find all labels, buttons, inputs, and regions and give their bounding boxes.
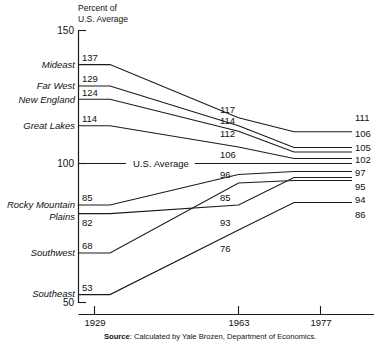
series-label-southeast: Southeast xyxy=(32,288,75,299)
y-axis-title-line2: U.S. Average xyxy=(78,14,128,24)
series-line-southeast xyxy=(79,203,353,295)
value-label-far-west-1977: 106 xyxy=(355,128,371,139)
value-label-southeast-1963: 76 xyxy=(220,243,231,254)
value-label-new-england-1977: 105 xyxy=(355,142,371,153)
source-note-text: : Calculated by Yale Brozen, Department … xyxy=(130,332,317,341)
value-label-plains-1929: 82 xyxy=(82,217,93,228)
value-label-great-lakes-1977: 102 xyxy=(355,154,371,165)
series-line-new-england xyxy=(79,99,353,152)
series-line-mideast xyxy=(79,65,353,132)
chart-page: Percent of U.S. Average 150 100 50 1929 … xyxy=(0,0,374,347)
value-label-southeast-1929: 53 xyxy=(82,282,93,293)
series-line-great-lakes xyxy=(79,126,353,159)
value-label-great-lakes-1963: 106 xyxy=(220,149,236,160)
series-line-far-west xyxy=(79,86,353,148)
value-label-new-england-1929: 124 xyxy=(82,87,98,98)
value-label-far-west-1929: 129 xyxy=(82,73,98,84)
y-tick-label-150: 150 xyxy=(57,25,74,36)
series-label-great-lakes: Great Lakes xyxy=(23,120,75,131)
value-label-southwest-1963: 93 xyxy=(220,217,231,228)
value-label-mideast-1977: 111 xyxy=(355,112,369,123)
value-label-southeast-1977: 86 xyxy=(355,209,366,220)
us-average-label: U.S. Average xyxy=(133,158,189,169)
value-label-southwest-1977: 94 xyxy=(355,194,366,205)
x-tick-label-1963: 1963 xyxy=(228,317,249,328)
series-line-rocky-mountain xyxy=(79,172,353,206)
value-label-rocky-mountain-1963: 96 xyxy=(220,169,231,180)
source-note-prefix: Source xyxy=(104,332,130,341)
y-tick-label-100: 100 xyxy=(57,158,74,169)
value-label-far-west-1963: 114 xyxy=(220,115,235,126)
value-label-mideast-1929: 137 xyxy=(82,52,98,63)
series-label-far-west: Far West xyxy=(37,80,76,91)
x-tick-label-1977: 1977 xyxy=(310,317,331,328)
value-label-mideast-1963: 117 xyxy=(220,104,235,115)
series-label-plains: Plains xyxy=(49,211,75,222)
source-note: Source: Calculated by Yale Brozen, Depar… xyxy=(104,332,316,341)
value-label-plains-1977: 95 xyxy=(355,181,366,192)
series-label-southwest: Southwest xyxy=(31,247,76,258)
value-label-rocky-mountain-1929: 85 xyxy=(82,192,93,203)
value-label-southwest-1929: 68 xyxy=(82,240,93,251)
series-label-mideast: Mideast xyxy=(42,59,76,70)
series-label-rocky-mountain: Rocky Mountain xyxy=(7,199,75,210)
y-axis-title-line1: Percent of xyxy=(78,3,117,13)
percent-of-us-average-line-chart: Percent of U.S. Average 150 100 50 1929 … xyxy=(0,0,374,347)
value-label-plains-1963: 85 xyxy=(220,192,231,203)
series-label-new-england: New England xyxy=(18,94,75,105)
x-tick-label-1929: 1929 xyxy=(84,317,105,328)
value-label-rocky-mountain-1977: 97 xyxy=(355,167,366,178)
value-label-great-lakes-1929: 114 xyxy=(82,113,97,124)
value-label-new-england-1963: 112 xyxy=(220,128,235,139)
